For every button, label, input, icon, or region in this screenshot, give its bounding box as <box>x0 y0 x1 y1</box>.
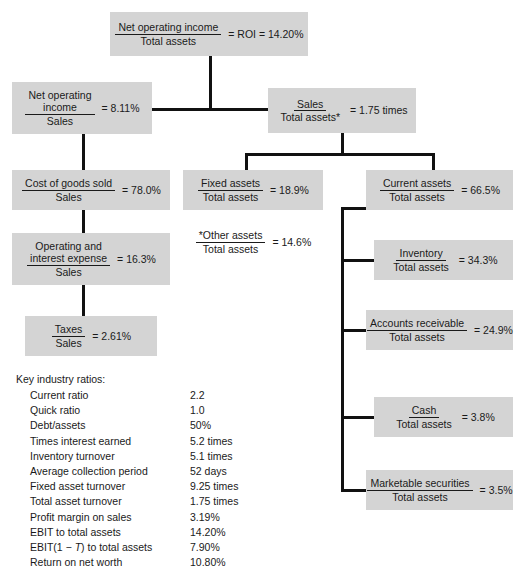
key-ratio-value: 10.80% <box>190 557 226 568</box>
key-ratio-row: Total asset turnover1.75 times <box>16 496 266 511</box>
key-ratio-row: Return on net worth10.80% <box>16 557 266 568</box>
node-asset-turnover: Sales Total assets* = 1.75 times <box>268 88 416 133</box>
key-ratio-row: Quick ratio1.0 <box>16 405 266 420</box>
node-accounts-receivable: Accounts receivable Total assets = 24.9% <box>366 310 513 350</box>
key-ratio-value: 3.19% <box>190 512 220 523</box>
key-ratio-label: Fixed asset turnover <box>30 481 125 492</box>
key-ratio-row: Current ratio2.2 <box>16 390 266 405</box>
node-accounts-receivable-result: = 24.9% <box>468 324 513 336</box>
node-cash-result: = 3.8% <box>456 411 495 423</box>
node-profit-margin: Net operating income Sales = 8.11% <box>12 82 152 134</box>
node-taxes-denominator: Sales <box>52 337 84 349</box>
node-operating-interest-expense-denominator: Sales <box>52 266 84 278</box>
key-ratio-row: Profit margin on sales3.19% <box>16 512 266 527</box>
key-ratio-label: Inventory turnover <box>30 451 115 462</box>
node-profit-margin-result: = 8.11% <box>96 102 140 114</box>
key-ratio-value: 50% <box>190 420 211 431</box>
node-roi: Net operating income Total assets = ROI … <box>110 12 308 56</box>
node-marketable-securities: Marketable securities Total assets = 3.5… <box>366 470 513 510</box>
node-cogs-result: = 78.0% <box>116 184 161 196</box>
node-fixed-assets: Fixed assets Total assets = 18.9% <box>183 170 323 210</box>
node-profit-margin-denominator: Sales <box>44 115 76 127</box>
node-roi-numerator: Net operating income <box>115 21 221 34</box>
key-ratio-value: 1.0 <box>190 405 205 416</box>
node-cogs-denominator: Sales <box>52 191 84 203</box>
connector-branch-cash <box>341 416 375 419</box>
node-operating-interest-expense-numerator-line1: Operating and <box>30 240 107 253</box>
node-profit-margin-numerator-line1: Net operating <box>28 89 91 102</box>
key-ratio-value: 9.25 times <box>190 481 238 492</box>
connector-roi-stem <box>209 56 212 110</box>
node-marketable-securities-denominator: Total assets <box>389 491 450 503</box>
node-asset-turnover-denominator: Total assets* <box>277 111 343 123</box>
node-operating-interest-expense-result: = 16.3% <box>111 253 156 265</box>
node-profit-margin-numerator-line2: income <box>28 101 91 114</box>
key-industry-ratios: Key industry ratios: Current ratio2.2Qui… <box>16 374 266 564</box>
node-marketable-securities-numerator: Marketable securities <box>367 477 472 490</box>
node-cogs: Cost of goods sold Sales = 78.0% <box>12 170 170 210</box>
connector-bracket-spine <box>341 207 344 492</box>
node-taxes-result: = 2.61% <box>86 330 131 342</box>
node-profit-margin-numerator: Net operating income <box>25 89 94 115</box>
key-ratio-value: 1.75 times <box>190 496 238 507</box>
node-cogs-numerator: Cost of goods sold <box>22 177 115 190</box>
node-operating-interest-expense: Operating and interest expense Sales = 1… <box>12 233 170 285</box>
node-fixed-assets-numerator: Fixed assets <box>198 177 263 190</box>
connector-turnover-stem <box>341 133 344 155</box>
node-cash-numerator: Cash <box>409 404 440 417</box>
key-ratio-label: Times interest earned <box>30 436 131 447</box>
key-ratio-label: EBIT(1 − T) to total assets <box>30 542 152 553</box>
node-other-assets-denominator: Total assets <box>200 243 261 255</box>
du-pont-chart: Net operating income Total assets = ROI … <box>0 0 525 568</box>
connector-margin-to-cogs <box>82 134 85 170</box>
node-inventory-denominator: Total assets <box>390 261 451 273</box>
node-fixed-assets-result: = 18.9% <box>264 184 309 196</box>
key-ratio-label: Average collection period <box>30 466 148 477</box>
key-ratio-label: Quick ratio <box>30 405 80 416</box>
connector-branch-inventory <box>341 259 375 262</box>
node-marketable-securities-result: = 3.5% <box>474 484 513 496</box>
key-ratio-value: 14.20% <box>190 527 226 538</box>
node-cash-denominator: Total assets <box>393 418 454 430</box>
node-inventory-numerator: Inventory <box>396 247 445 260</box>
key-ratio-label: Return on net worth <box>30 557 122 568</box>
key-industry-ratios-title: Key industry ratios: <box>16 374 105 385</box>
node-inventory: Inventory Total assets = 34.3% <box>374 240 513 280</box>
node-other-assets: *Other assets Total assets = 14.6% <box>183 222 323 262</box>
key-ratio-row: Inventory turnover5.1 times <box>16 451 266 466</box>
key-ratio-label: EBIT to total assets <box>30 527 121 538</box>
node-roi-denominator: Total assets <box>138 35 199 47</box>
key-ratio-value: 2.2 <box>190 390 205 401</box>
connector-to-fixed-assets <box>245 153 248 170</box>
node-asset-turnover-result: = 1.75 times <box>344 104 408 116</box>
key-ratio-value: 5.2 times <box>190 436 233 447</box>
node-inventory-result: = 34.3% <box>453 254 498 266</box>
key-ratio-value: 7.90% <box>190 542 220 553</box>
node-operating-interest-expense-numerator: Operating and interest expense <box>27 240 110 266</box>
node-other-assets-numerator: *Other assets <box>196 229 266 242</box>
node-asset-turnover-numerator: Sales <box>294 98 326 111</box>
key-ratio-row: Fixed asset turnover9.25 times <box>16 481 266 496</box>
key-ratio-label: Debt/assets <box>30 420 85 431</box>
node-current-assets-numerator: Current assets <box>380 177 454 190</box>
node-accounts-receivable-numerator: Accounts receivable <box>367 317 467 330</box>
key-ratio-label: Total asset turnover <box>30 496 122 507</box>
node-taxes-numerator: Taxes <box>52 323 85 336</box>
connector-turnover-crossbar <box>245 153 435 156</box>
node-roi-result: = ROI = 14.20% <box>222 28 303 40</box>
node-fixed-assets-denominator: Total assets <box>200 191 261 203</box>
node-operating-interest-expense-numerator-line2: interest expense <box>30 252 107 265</box>
key-ratio-row: EBIT to total assets14.20% <box>16 527 266 542</box>
node-accounts-receivable-denominator: Total assets <box>386 331 447 343</box>
key-ratio-label: Current ratio <box>30 390 88 401</box>
key-ratio-value: 5.1 times <box>190 451 233 462</box>
key-ratio-label: Profit margin on sales <box>30 512 132 523</box>
key-ratio-value: 52 days <box>190 466 227 477</box>
connector-to-current-assets <box>432 153 435 170</box>
node-current-assets-result: = 66.5% <box>455 184 500 196</box>
node-current-assets: Current assets Total assets = 66.5% <box>366 170 513 210</box>
key-ratio-row: Average collection period52 days <box>16 466 266 481</box>
node-current-assets-denominator: Total assets <box>386 191 447 203</box>
node-taxes: Taxes Sales = 2.61% <box>25 316 157 356</box>
node-cash: Cash Total assets = 3.8% <box>374 397 513 437</box>
